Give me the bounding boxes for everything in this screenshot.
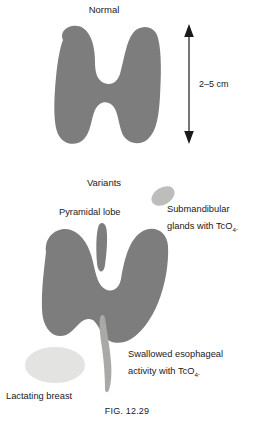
esophageal-label-line1: Swallowed esophageal: [128, 349, 223, 359]
variants-panel-title: Variants: [87, 177, 121, 188]
arrow-head-up-icon: [184, 24, 194, 37]
pyramidal-lobe-label: Pyramidal lobe: [59, 207, 121, 217]
thyroid-gland-normal-shape: [54, 26, 161, 144]
figure-container: Normal 2–5 cm Variants Pyramidal lobe Su…: [0, 0, 254, 423]
figure-caption: FIG. 12.29: [105, 406, 150, 416]
esophageal-label-line2: activity with TcO4-: [128, 366, 200, 378]
submandibular-label-line1: Submandibular: [167, 204, 230, 214]
normal-panel-title: Normal: [89, 4, 120, 15]
arrow-head-down-icon: [184, 131, 194, 144]
lactating-breast-shape: [25, 347, 85, 383]
thyroid-scintigraphy-figure: Normal 2–5 cm Variants Pyramidal lobe Su…: [0, 0, 254, 423]
submandibular-label-line2-text: glands with TcO: [167, 221, 232, 231]
dimension-arrow-normal: [184, 24, 194, 144]
dimension-label: 2–5 cm: [199, 79, 229, 89]
esophageal-label-line2-text: activity with TcO: [128, 366, 194, 376]
submandibular-label-line2: glands with TcO4-: [167, 221, 238, 233]
pyramidal-lobe-shape: [96, 223, 107, 272]
submandibular-superscript: -: [236, 225, 238, 232]
esophageal-superscript: -: [198, 370, 200, 377]
lactating-breast-label: Lactating breast: [6, 391, 73, 401]
